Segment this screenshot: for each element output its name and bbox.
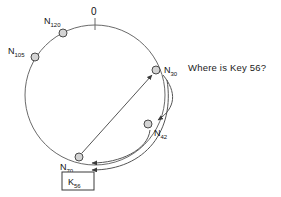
arrow-n70-to-n30 [82, 75, 152, 153]
node-n70[interactable] [75, 153, 83, 161]
node-label-n120: N120 [44, 16, 61, 28]
node-label-n30: N30 [164, 65, 178, 77]
chord-ring-diagram: 0 N120 N105 N30 N42 N70 [0, 0, 281, 197]
arrow-n42-to-n70 [92, 130, 150, 163]
node-label-n105: N105 [8, 46, 25, 58]
arrow-n30-to-n70 [92, 80, 168, 170]
node-n105[interactable] [31, 53, 39, 61]
node-n42[interactable] [144, 120, 152, 128]
node-n30[interactable] [152, 66, 160, 74]
node-label-n42: N42 [154, 128, 168, 140]
diagram-canvas: 0 N120 N105 N30 N42 N70 [0, 0, 281, 197]
origin-label: 0 [91, 6, 97, 17]
question-text: Where is Key 56? [188, 62, 266, 73]
node-n120[interactable] [59, 29, 67, 37]
